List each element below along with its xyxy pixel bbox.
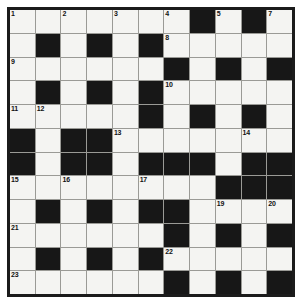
- letter-cell[interactable]: [190, 34, 215, 57]
- letter-cell[interactable]: [190, 200, 215, 223]
- letter-cell[interactable]: [87, 10, 112, 33]
- letter-cell[interactable]: [36, 271, 61, 294]
- letter-cell[interactable]: [36, 153, 61, 176]
- letter-cell[interactable]: [61, 81, 86, 104]
- letter-cell[interactable]: [190, 58, 215, 81]
- letter-cell[interactable]: [216, 129, 241, 152]
- letter-cell[interactable]: [113, 58, 138, 81]
- letter-cell[interactable]: [242, 224, 267, 247]
- letter-cell[interactable]: [164, 105, 189, 128]
- letter-cell[interactable]: [216, 81, 241, 104]
- letter-cell[interactable]: 1: [10, 10, 35, 33]
- letter-cell[interactable]: [61, 224, 86, 247]
- letter-cell[interactable]: [216, 248, 241, 271]
- letter-cell[interactable]: [190, 271, 215, 294]
- block-cell: [190, 153, 215, 176]
- letter-cell[interactable]: [36, 224, 61, 247]
- block-cell: [242, 153, 267, 176]
- letter-cell[interactable]: [87, 105, 112, 128]
- letter-cell[interactable]: [113, 176, 138, 199]
- clue-number: 3: [114, 10, 118, 18]
- letter-cell[interactable]: 2: [61, 10, 86, 33]
- letter-cell[interactable]: 20: [267, 200, 292, 223]
- letter-cell[interactable]: [113, 200, 138, 223]
- letter-cell[interactable]: [113, 224, 138, 247]
- letter-cell[interactable]: 16: [61, 176, 86, 199]
- letter-cell[interactable]: [139, 10, 164, 33]
- letter-cell[interactable]: [61, 248, 86, 271]
- letter-cell[interactable]: [164, 129, 189, 152]
- letter-cell[interactable]: [190, 129, 215, 152]
- letter-cell[interactable]: [267, 105, 292, 128]
- letter-cell[interactable]: [190, 248, 215, 271]
- letter-cell[interactable]: [10, 81, 35, 104]
- crossword-grid[interactable]: 1234578910111213141516171920212223: [10, 10, 292, 294]
- letter-cell[interactable]: 3: [113, 10, 138, 33]
- letter-cell[interactable]: [61, 34, 86, 57]
- letter-cell[interactable]: [61, 200, 86, 223]
- letter-cell[interactable]: [36, 10, 61, 33]
- letter-cell[interactable]: [113, 81, 138, 104]
- letter-cell[interactable]: [10, 34, 35, 57]
- letter-cell[interactable]: 9: [10, 58, 35, 81]
- letter-cell[interactable]: [36, 129, 61, 152]
- letter-cell[interactable]: [216, 105, 241, 128]
- letter-cell[interactable]: [36, 176, 61, 199]
- letter-cell[interactable]: [113, 153, 138, 176]
- letter-cell[interactable]: [242, 58, 267, 81]
- letter-cell[interactable]: 8: [164, 34, 189, 57]
- block-cell: [267, 176, 292, 199]
- letter-cell[interactable]: [190, 81, 215, 104]
- letter-cell[interactable]: 14: [242, 129, 267, 152]
- letter-cell[interactable]: 7: [267, 10, 292, 33]
- letter-cell[interactable]: [87, 58, 112, 81]
- letter-cell[interactable]: [87, 176, 112, 199]
- letter-cell[interactable]: 4: [164, 10, 189, 33]
- letter-cell[interactable]: [36, 58, 61, 81]
- letter-cell[interactable]: [242, 271, 267, 294]
- letter-cell[interactable]: [190, 224, 215, 247]
- letter-cell[interactable]: 12: [36, 105, 61, 128]
- letter-cell[interactable]: [216, 153, 241, 176]
- letter-cell[interactable]: 19: [216, 200, 241, 223]
- letter-cell[interactable]: [139, 58, 164, 81]
- letter-cell[interactable]: [267, 248, 292, 271]
- block-cell: [139, 81, 164, 104]
- letter-cell[interactable]: [267, 34, 292, 57]
- clue-number: 19: [217, 200, 224, 208]
- letter-cell[interactable]: [242, 248, 267, 271]
- letter-cell[interactable]: [113, 34, 138, 57]
- letter-cell[interactable]: 10: [164, 81, 189, 104]
- letter-cell[interactable]: 23: [10, 271, 35, 294]
- letter-cell[interactable]: [190, 176, 215, 199]
- letter-cell[interactable]: [113, 271, 138, 294]
- letter-cell[interactable]: 5: [216, 10, 241, 33]
- letter-cell[interactable]: [242, 34, 267, 57]
- letter-cell[interactable]: [242, 200, 267, 223]
- letter-cell[interactable]: [164, 176, 189, 199]
- letter-cell[interactable]: [87, 271, 112, 294]
- block-cell: [216, 271, 241, 294]
- letter-cell[interactable]: 15: [10, 176, 35, 199]
- letter-cell[interactable]: [61, 58, 86, 81]
- letter-cell[interactable]: [61, 271, 86, 294]
- letter-cell[interactable]: 13: [113, 129, 138, 152]
- letter-cell[interactable]: [267, 81, 292, 104]
- letter-cell[interactable]: 11: [10, 105, 35, 128]
- letter-cell[interactable]: [242, 81, 267, 104]
- letter-cell[interactable]: 22: [164, 248, 189, 271]
- letter-cell[interactable]: [87, 224, 112, 247]
- letter-cell[interactable]: [113, 105, 138, 128]
- letter-cell[interactable]: [113, 248, 138, 271]
- letter-cell[interactable]: [216, 34, 241, 57]
- letter-cell[interactable]: [139, 224, 164, 247]
- letter-cell[interactable]: [10, 248, 35, 271]
- letter-cell[interactable]: [10, 200, 35, 223]
- letter-cell[interactable]: [267, 129, 292, 152]
- letter-cell[interactable]: 17: [139, 176, 164, 199]
- block-cell: [164, 200, 189, 223]
- letter-cell[interactable]: [139, 129, 164, 152]
- letter-cell[interactable]: 21: [10, 224, 35, 247]
- letter-cell[interactable]: [139, 271, 164, 294]
- letter-cell[interactable]: [61, 105, 86, 128]
